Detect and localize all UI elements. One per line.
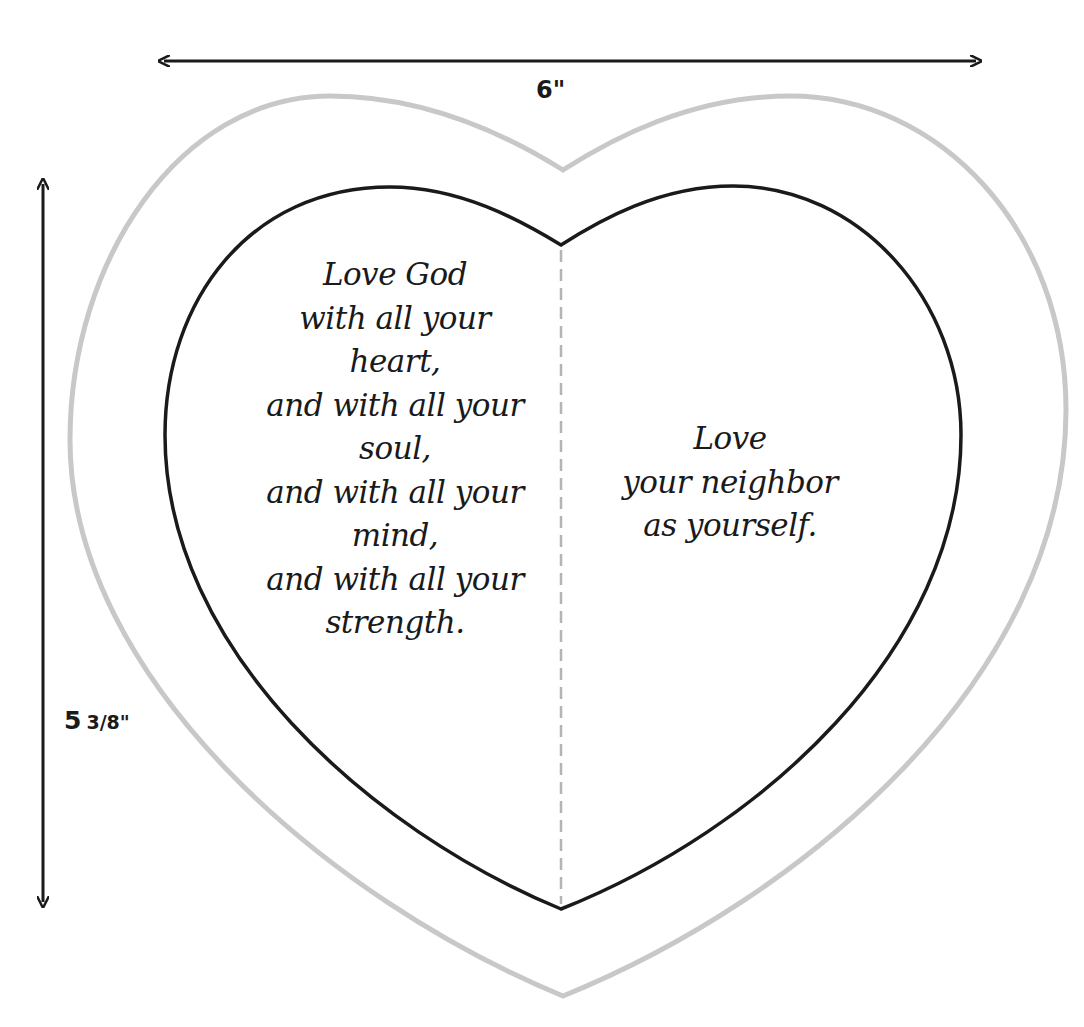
heart-card-diagram: 6" 53/8" Love God with all your heart, a… [0, 0, 1084, 1027]
verse-line: and with all your [240, 384, 550, 428]
verse-line: Love God [240, 253, 550, 297]
left-panel-verse: Love God with all your heart, and with a… [240, 253, 550, 645]
verse-line: and with all your [240, 471, 550, 515]
width-dimension-label: 6" [536, 76, 565, 104]
verse-line: your neighbor [590, 461, 870, 505]
height-whole: 5 [64, 706, 81, 735]
verse-line: heart, [240, 340, 550, 384]
verse-line: with all your [240, 297, 550, 341]
height-fraction: 3/8" [86, 711, 129, 733]
verse-line: as yourself. [590, 504, 870, 548]
verse-line: soul, [240, 427, 550, 471]
verse-line: mind, [240, 514, 550, 558]
height-dimension-label: 53/8" [64, 706, 130, 735]
right-panel-verse: Love your neighbor as yourself. [590, 417, 870, 548]
verse-line: and with all your [240, 558, 550, 602]
outer-heart-outline [70, 96, 1066, 996]
verse-line: Love [590, 417, 870, 461]
verse-line: strength. [240, 601, 550, 645]
